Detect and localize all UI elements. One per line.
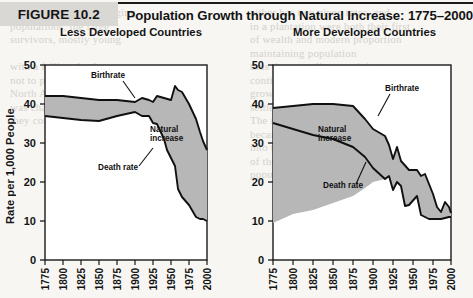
y-tick-20-left: 20	[24, 176, 36, 188]
annotation-birthrate-label-right: Birthrate	[385, 84, 420, 93]
chart-panel-more-developed: More Developed Countries 50 40	[238, 26, 473, 290]
figure-number-tag: FIGURE 10.2	[0, 2, 118, 26]
chart-title-more-developed: More Developed Countries	[256, 26, 473, 38]
y-axis-right: 50 40 30 20 10 0	[252, 59, 273, 266]
y-tick-30-right: 30	[252, 137, 264, 149]
annotation-birthrate-label-left: Birthrate	[91, 71, 126, 80]
y-axis-left: 50 40 30 20 10 0	[24, 59, 45, 266]
y-tick-50-left: 50	[24, 59, 36, 71]
x-tick-1800-left: 1800	[58, 268, 69, 290]
figure-title: Population Growth through Natural Increa…	[127, 8, 473, 23]
y-tick-50-right: 50	[252, 59, 264, 71]
figure-page: the process of the changing populations,…	[0, 0, 473, 298]
y-tick-30-left: 30	[24, 137, 36, 149]
x-tick-1825-left: 1825	[76, 268, 87, 290]
chart-title-less-developed: Less Developed Countries	[28, 26, 234, 38]
chart-svg-more-developed: 50 40 30 20 10 0 Birthrat	[238, 40, 473, 290]
chart-svg-less-developed: 50 40 30 20 10 0 Birthrat	[2, 40, 234, 290]
y-tick-20-right: 20	[252, 176, 264, 188]
x-tick-2000-left: 2000	[202, 268, 213, 290]
y-axis-label-left: Rate per 1,000 People	[2, 76, 18, 256]
figure-header: FIGURE 10.2 Population Growth through Na…	[0, 2, 473, 26]
y-tick-40-left: 40	[24, 98, 36, 110]
charts-container: Less Developed Countries Rate per 1,000 …	[0, 26, 473, 298]
figure-title-container: Population Growth through Natural Increa…	[118, 2, 473, 26]
x-axis-left: 1775 1800 1825 1850 1875 1900 1925 1950 …	[40, 260, 213, 290]
x-tick-1950-right: 1950	[408, 268, 419, 290]
y-tick-10-left: 10	[24, 215, 36, 227]
x-tick-1875-right: 1875	[348, 268, 359, 290]
y-tick-0-left: 0	[30, 254, 36, 266]
annotation-natural-increase-line2-left: increase	[150, 134, 184, 143]
chart-panel-less-developed: Less Developed Countries Rate per 1,000 …	[2, 26, 234, 290]
y-tick-10-right: 10	[252, 215, 264, 227]
x-tick-1900-right: 1900	[368, 268, 379, 290]
plot-wrap-more-developed: 50 40 30 20 10 0 Birthrat	[238, 40, 473, 290]
y-tick-40-right: 40	[252, 98, 264, 110]
x-tick-1850-left: 1850	[94, 268, 105, 290]
x-tick-1950-left: 1950	[166, 268, 177, 290]
x-tick-1850-right: 1850	[328, 268, 339, 290]
annotation-natural-increase-line1-left: Natural	[150, 125, 178, 134]
x-tick-1975-left: 1975	[184, 268, 195, 290]
x-tick-1825-right: 1825	[308, 268, 319, 290]
annotation-death-rate-label-right: Death rate	[323, 181, 363, 190]
annotation-death-rate-label-left: Death rate	[98, 163, 138, 172]
x-tick-1875-left: 1875	[112, 268, 123, 290]
annotation-natural-increase-line1-right: Natural	[318, 125, 346, 134]
annotation-natural-increase-line2-right: increase	[318, 134, 352, 143]
plot-wrap-less-developed: Rate per 1,000 People 50 40 30	[2, 40, 234, 290]
x-tick-2000-right: 2000	[446, 268, 457, 290]
x-tick-1975-right: 1975	[428, 268, 439, 290]
x-axis-right: 1775 1800 1825 1850 1875 1900 1925 1950 …	[268, 260, 457, 290]
x-tick-1800-right: 1800	[288, 268, 299, 290]
y-tick-0-right: 0	[258, 254, 264, 266]
x-tick-1775-right: 1775	[268, 268, 279, 290]
x-tick-1925-left: 1925	[148, 268, 159, 290]
x-tick-1925-right: 1925	[388, 268, 399, 290]
x-tick-1775-left: 1775	[40, 268, 51, 290]
x-tick-1900-left: 1900	[130, 268, 141, 290]
